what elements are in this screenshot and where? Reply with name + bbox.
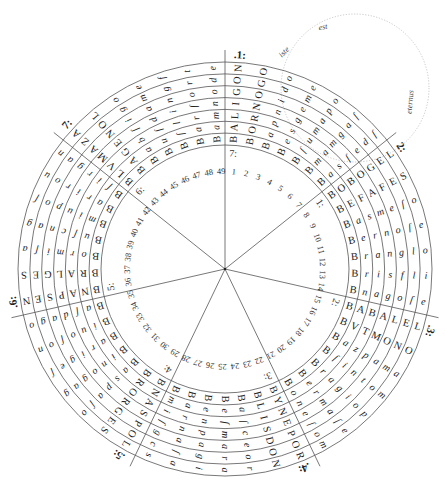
letter: u <box>83 231 90 243</box>
letter: e <box>281 136 293 145</box>
number-27: 27 <box>192 357 203 369</box>
letter: P <box>285 429 297 439</box>
letter: a <box>37 221 44 233</box>
letter: a <box>99 337 109 349</box>
letter: i <box>343 392 353 402</box>
letter: r <box>311 387 322 397</box>
letter: a <box>210 125 221 131</box>
sector-dividers <box>12 50 439 466</box>
letter: m <box>165 395 178 406</box>
letter: f <box>401 269 405 280</box>
number-16: 16 <box>307 305 320 317</box>
letter: B <box>178 141 191 151</box>
letter: a <box>237 406 249 412</box>
letter: ſ <box>74 307 81 319</box>
number-38: 38 <box>122 252 133 262</box>
center-point <box>224 268 227 271</box>
letter: i <box>341 360 350 370</box>
letter: o <box>394 224 401 236</box>
letter: O <box>267 447 280 458</box>
letter: g <box>398 246 404 257</box>
number-36: 36 <box>122 277 133 287</box>
letter: o <box>282 74 294 82</box>
number-44: 44 <box>157 186 170 200</box>
letter: i <box>92 321 99 332</box>
letter: n <box>387 247 393 258</box>
letter: n <box>163 97 175 105</box>
letter: O <box>231 76 242 85</box>
number-19: 19 <box>285 335 298 348</box>
number-45: 45 <box>167 179 179 192</box>
letter: N <box>21 295 31 307</box>
number-29: 29 <box>168 347 180 360</box>
letter: o <box>52 175 62 187</box>
sector-label-6: .6: <box>6 295 20 309</box>
letter: a <box>142 145 154 155</box>
letter: B <box>350 251 358 263</box>
letter: n <box>362 286 369 298</box>
letter: i <box>194 466 205 470</box>
sector-4-word-7: Bmiſgcs <box>144 384 183 459</box>
letter: i <box>424 270 427 281</box>
letter: n <box>177 425 189 433</box>
sector-7-word-7: Bamnode <box>206 65 222 143</box>
letter: B <box>228 135 239 143</box>
letter: p <box>359 407 371 419</box>
letter: ſ <box>239 419 250 424</box>
number-11: 11 <box>315 245 326 255</box>
letter: E <box>387 175 398 188</box>
letter: u <box>157 137 169 146</box>
letter: ſ <box>152 126 164 134</box>
letter: a <box>372 355 382 367</box>
letter: B <box>101 315 112 328</box>
number-15: 15 <box>312 294 324 305</box>
letter: ſ <box>71 229 77 241</box>
number-3: 3 <box>255 171 262 182</box>
volvelle-diagram: iste est eternus BALIGONBORNOGOBapnidoBe… <box>0 0 445 490</box>
letter: a <box>142 105 154 114</box>
letter: A <box>67 268 75 279</box>
number-13: 13 <box>318 270 328 279</box>
letter: B <box>186 390 198 400</box>
letter: ſ <box>32 194 40 206</box>
letter: e <box>360 231 367 243</box>
letter: a <box>316 115 328 125</box>
letter: s <box>388 269 392 280</box>
letter: g <box>195 454 207 460</box>
letter: u <box>65 206 73 218</box>
letter: i <box>275 97 286 103</box>
letter: o <box>69 330 78 342</box>
annotation-word-iste: iste <box>277 45 292 60</box>
letter: B <box>220 395 231 402</box>
letter: B <box>95 300 105 313</box>
letter: i <box>123 116 134 125</box>
letter: r <box>84 169 94 180</box>
letter: B <box>170 384 183 395</box>
letter: g <box>116 105 128 115</box>
letter: i <box>79 349 87 360</box>
sector-1-word-1: BALIGON <box>228 64 244 143</box>
number-35: 35 <box>124 289 136 300</box>
letter: e <box>132 83 144 92</box>
letter: n <box>200 418 212 424</box>
letter: a <box>354 214 362 226</box>
number-20: 20 <box>275 342 288 355</box>
letter: ſ <box>410 294 416 305</box>
letter: G <box>118 145 132 158</box>
letter: ſ <box>297 145 308 154</box>
letter: a <box>373 288 380 300</box>
letter: i <box>46 246 50 257</box>
sector-label-7: 7: <box>59 116 74 131</box>
letter: A <box>126 154 140 167</box>
letter: l <box>413 270 416 281</box>
inner-label-3: 2: <box>330 297 343 308</box>
letter: B <box>275 146 288 157</box>
letter: s <box>365 210 373 222</box>
number-9: 9 <box>308 222 319 230</box>
letter: n <box>271 108 283 116</box>
letter: e <box>300 409 312 419</box>
letter: B <box>342 218 352 231</box>
letter: c <box>148 440 160 449</box>
letter: o <box>81 250 87 261</box>
letter: e <box>220 409 231 414</box>
